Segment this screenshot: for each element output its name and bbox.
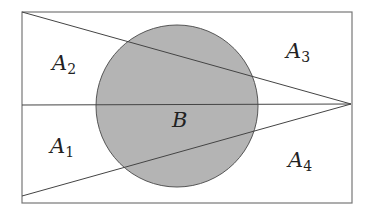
circle-region-b — [96, 25, 258, 187]
region-diagram: A2 A3 A1 A4 B — [0, 0, 370, 214]
label-b: B — [171, 108, 187, 132]
